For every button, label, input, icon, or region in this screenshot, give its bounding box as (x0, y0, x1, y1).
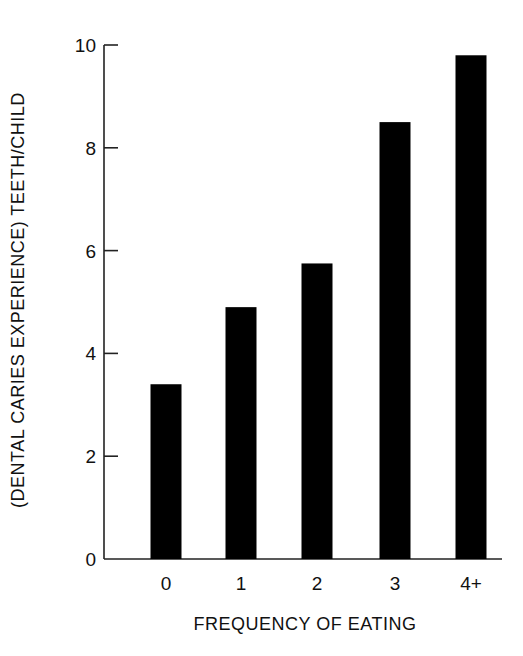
x-tick-label: 3 (390, 573, 401, 594)
x-axis-title: FREQUENCY OF EATING (194, 614, 417, 634)
y-tick-label: 2 (85, 446, 96, 467)
bar (380, 122, 411, 559)
y-axis-title: (DENTAL CARIES EXPERIENCE) TEETH/CHILD (8, 92, 28, 508)
x-tick-label: 2 (312, 573, 323, 594)
bar (456, 55, 487, 559)
y-tick-label: 0 (85, 549, 96, 570)
bar-chart: 0246810 01234+ (DENTAL CARIES EXPERIENCE… (0, 0, 523, 656)
bar (151, 384, 182, 559)
bar (226, 307, 257, 559)
y-tick-label: 10 (75, 35, 96, 56)
bar (302, 263, 333, 559)
y-tick-label: 6 (85, 241, 96, 262)
x-tick-label: 1 (236, 573, 247, 594)
bars (151, 55, 487, 559)
y-tick-label: 8 (85, 138, 96, 159)
x-tick-label: 4+ (460, 573, 482, 594)
x-tick-label: 0 (161, 573, 172, 594)
y-axis: 0246810 (75, 35, 118, 570)
x-axis: 01234+ (104, 559, 502, 594)
y-tick-label: 4 (85, 343, 96, 364)
